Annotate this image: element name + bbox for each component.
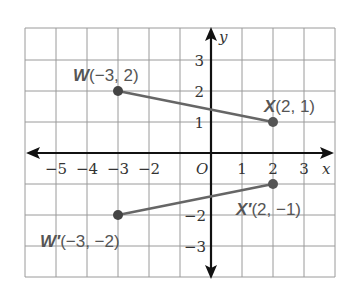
origin-label: O bbox=[196, 160, 208, 178]
svg-text:−3: −3 bbox=[184, 238, 206, 256]
x-axis-label: x bbox=[322, 160, 331, 178]
label-w-prime: W′(−3, −2) bbox=[40, 232, 120, 251]
point-w-prime bbox=[113, 210, 123, 220]
svg-text:−4: −4 bbox=[76, 160, 98, 178]
point-x-prime bbox=[268, 179, 278, 189]
svg-text:2: 2 bbox=[268, 160, 278, 178]
label-w: W(−3, 2) bbox=[73, 66, 139, 85]
svg-text:−2: −2 bbox=[138, 160, 160, 178]
x-tick-labels: −5 −4 −3 −2 1 2 3 bbox=[45, 160, 309, 178]
coordinate-plane: −5 −4 −3 −2 1 2 3 3 2 1 −2 −3 O x y W(−3… bbox=[0, 0, 355, 298]
svg-text:1: 1 bbox=[237, 160, 247, 178]
svg-text:3: 3 bbox=[194, 52, 204, 70]
y-axis-label: y bbox=[218, 28, 228, 46]
label-x-prime: X′(2, −1) bbox=[235, 200, 301, 219]
point-w bbox=[113, 86, 123, 96]
svg-text:1: 1 bbox=[194, 114, 204, 132]
label-x: X(2, 1) bbox=[263, 97, 315, 116]
svg-text:−3: −3 bbox=[107, 160, 129, 178]
svg-text:−2: −2 bbox=[184, 207, 206, 225]
svg-text:−5: −5 bbox=[45, 160, 67, 178]
svg-text:2: 2 bbox=[194, 83, 204, 101]
svg-text:3: 3 bbox=[299, 160, 309, 178]
point-x bbox=[268, 117, 278, 127]
